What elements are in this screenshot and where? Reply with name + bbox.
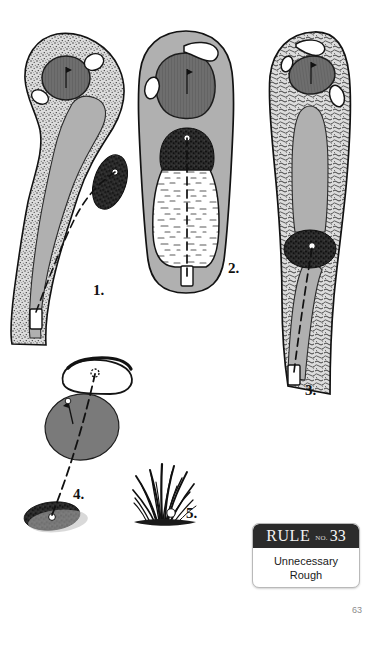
rule-number-label: 33	[330, 528, 346, 544]
rule-no-label: NO.	[315, 534, 327, 542]
hole-label-1: 1.	[93, 283, 104, 298]
hole-label-3: 3.	[305, 383, 316, 398]
diagram5-ball	[167, 509, 175, 517]
hole3-fairway-upper	[292, 106, 328, 232]
hole2-green	[155, 53, 215, 119]
rule-badge-header: RULE NO. 33	[253, 524, 359, 548]
hole-diagram-1	[11, 33, 134, 345]
rule-word-label: RULE	[266, 528, 310, 544]
hole-diagram-3	[269, 32, 350, 394]
hole-label-4: 4.	[73, 487, 84, 502]
hole-diagram-4	[23, 358, 132, 535]
rule-badge: RULE NO. 33 Unnecessary Rough	[252, 523, 360, 588]
rule-title-line-1: Unnecessary	[274, 554, 338, 568]
hole-diagram-2	[138, 31, 233, 293]
hole-label-2: 2.	[228, 261, 239, 276]
hole-label-5: 5.	[186, 506, 197, 521]
page-number: 63	[352, 605, 362, 615]
hole2-waste-area	[153, 170, 219, 267]
rule-badge-body: Unnecessary Rough	[253, 548, 359, 587]
page-root: 1. 2. 3. 4. 5. RULE NO. 33 Unnecessary R…	[0, 0, 379, 646]
diagram4-green-ball	[65, 398, 71, 404]
rule-title-line-2: Rough	[290, 568, 322, 582]
